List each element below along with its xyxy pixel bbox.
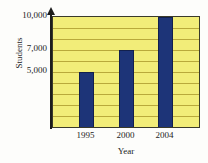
gridline — [53, 28, 199, 29]
y-axis-tick-labels: 10,000 7,000 5,000 — [5, 0, 47, 163]
x-axis-title: Year — [52, 146, 200, 156]
bar — [158, 17, 173, 127]
y-axis-tick-label: 7,000 — [7, 44, 47, 53]
bar — [119, 50, 134, 127]
arrow-up-icon — [47, 7, 55, 15]
y-axis-tick-label: 5,000 — [7, 66, 47, 75]
x-axis-tick-label: 2000 — [109, 131, 143, 140]
x-axis-tick-label: 2004 — [148, 131, 182, 140]
bar — [79, 72, 94, 127]
x-axis-tick-label: 1995 — [69, 131, 103, 140]
bar-chart: Students 10,000 7,000 5,000 1995 2000 20… — [0, 0, 208, 163]
plot-area — [52, 16, 200, 128]
gridline — [53, 39, 199, 40]
y-axis-tick-label: 10,000 — [7, 11, 47, 20]
